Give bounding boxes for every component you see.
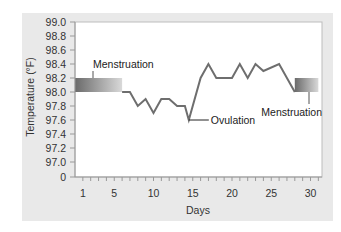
y-axis-title: Temperature (°F) [24, 57, 36, 136]
y-axis: 097.097.297.497.697.898.098.298.498.698.… [46, 16, 75, 183]
x-tick-label: 30 [305, 187, 317, 199]
y-tick-label: 99.0 [46, 16, 67, 28]
y-tick-label: 98.0 [46, 86, 67, 98]
x-tick-label: 15 [187, 187, 199, 199]
plot-area [75, 22, 322, 177]
y-tick-label: 98.8 [46, 30, 67, 42]
menstruation-label: Menstruation [93, 58, 154, 70]
y-tick-label: 97.0 [46, 156, 67, 168]
y-tick-label: 97.6 [46, 114, 67, 126]
y-tick-label: 98.4 [46, 58, 67, 70]
y-tick-label: 98.6 [46, 44, 67, 56]
x-tick-label: 10 [148, 187, 160, 199]
x-axis: 151015202530 [75, 177, 322, 199]
y-tick-label: 0 [60, 171, 66, 183]
menstruation-band [75, 78, 122, 92]
x-tick-label: 25 [265, 187, 277, 199]
x-axis-title: Days [186, 204, 210, 216]
x-tick-label: 20 [226, 187, 238, 199]
menstruation-band [295, 78, 319, 92]
y-tick-label: 97.8 [46, 100, 67, 112]
menstruation-label: Menstruation [261, 106, 322, 118]
ovulation-label: Ovulation [211, 114, 256, 126]
x-tick-label: 5 [111, 187, 117, 199]
x-tick-label: 1 [80, 187, 86, 199]
y-tick-label: 98.2 [46, 72, 67, 84]
y-tick-label: 97.4 [46, 128, 67, 140]
bbt-chart: 097.097.297.497.697.898.098.298.498.698.… [0, 0, 341, 232]
y-tick-label: 97.2 [46, 142, 67, 154]
